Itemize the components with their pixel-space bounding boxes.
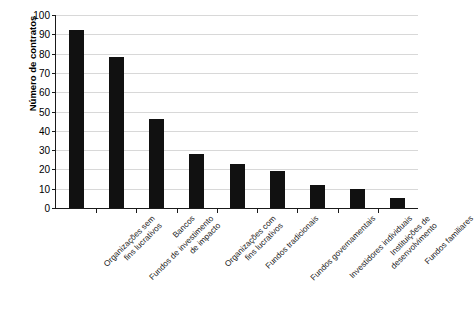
x-tick-label: Organizações comfins lucrativos — [223, 214, 285, 276]
x-tick-label: Fundos governamentais — [309, 214, 378, 283]
